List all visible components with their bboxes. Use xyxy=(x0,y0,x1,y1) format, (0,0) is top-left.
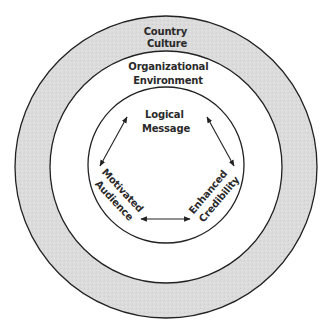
logical-message-line-2: Message xyxy=(142,123,190,134)
organizational-environment-line-1: Organizational xyxy=(128,61,208,72)
country-culture-line-1: Country xyxy=(144,26,188,37)
organizational-environment-line-2: Environment xyxy=(133,75,203,86)
concentric-diagram: Country Culture Organizational Environme… xyxy=(0,0,332,336)
country-culture-label: Country Culture xyxy=(144,26,191,49)
logical-message-line-1: Logical xyxy=(145,109,184,120)
country-culture-line-2: Culture xyxy=(147,38,188,49)
